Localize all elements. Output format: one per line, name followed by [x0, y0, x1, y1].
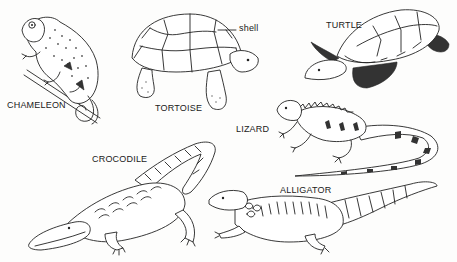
shell-label: shell	[239, 24, 259, 33]
crocodile-label: CROCODILE	[92, 155, 147, 164]
turtle-drawing	[297, 0, 457, 95]
lizard-label: LIZARD	[236, 125, 269, 134]
alligator-label: ALLIGATOR	[280, 186, 332, 195]
tortoise-label: TORTOISE	[155, 104, 202, 113]
alligator-drawing	[205, 170, 445, 260]
crocodile-drawing	[25, 134, 235, 259]
reptile-illustration: CHAMELEON shell TORTOISE	[0, 0, 457, 262]
chameleon-label: CHAMELEON	[7, 101, 66, 110]
turtle-label: TURTLE	[326, 21, 362, 30]
